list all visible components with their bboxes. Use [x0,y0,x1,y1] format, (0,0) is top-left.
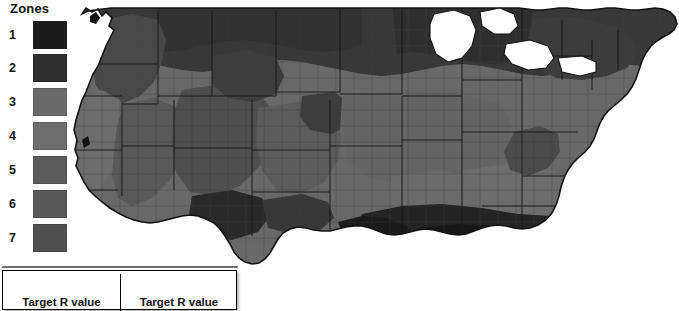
target-r-value-table: Target R value Target R value [2,270,237,310]
legend-label-3: 3 [9,95,16,109]
map-container [62,0,679,266]
legend-label-4: 4 [9,129,16,143]
column-header-target-r-value-2: Target R value [140,296,218,309]
zone-region-florida [562,206,636,262]
legend-label-6: 6 [9,197,16,211]
legend-label-5: 5 [9,163,16,177]
united-states-zone-map [62,0,679,266]
legend-label-1: 1 [9,28,16,42]
legend-label-7: 7 [9,231,16,245]
zone-region-louisiana-gulf [418,224,558,252]
legend-label-2: 2 [9,61,16,75]
column-header-target-r-value-1: Target R value [22,296,100,309]
table-column-1: Target R value [3,271,120,309]
legend-title: Zones [10,1,49,16]
table-column-2: Target R value [121,271,237,309]
table-top-rule [2,266,238,268]
